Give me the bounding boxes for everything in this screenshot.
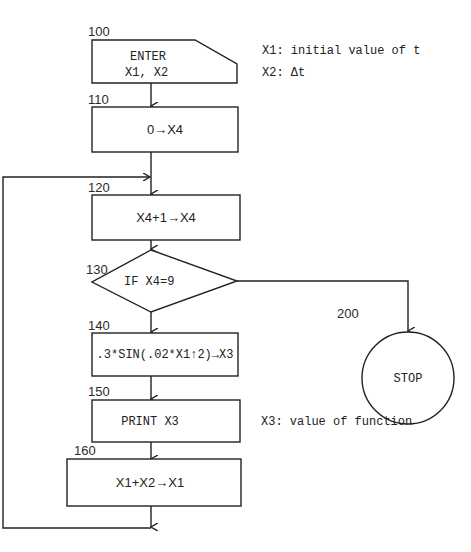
flowchart-diagram: 100 ENTER X1, X2 X1: initial value of t … — [0, 0, 471, 552]
node-110-number: 110 — [88, 92, 109, 107]
node-200-terminal: 200 STOP — [337, 306, 454, 424]
node-120-text: X4+1→X4 — [136, 210, 196, 225]
node-200-number: 200 — [337, 306, 359, 321]
node-120-process: 120 X4+1→X4 — [88, 180, 240, 240]
node-140-number: 140 — [88, 318, 110, 333]
node-150-output: 150 PRINT X3 — [88, 384, 240, 442]
node-120-number: 120 — [88, 180, 110, 195]
node-100-number: 100 — [88, 24, 110, 39]
node-130-decision: 130 IF X4=9 — [86, 250, 237, 312]
node-100-input: 100 ENTER X1, X2 — [88, 24, 237, 83]
node-150-text: PRINT X3 — [121, 415, 179, 429]
annotation-x2: X2: Δt — [262, 66, 305, 80]
node-150-number: 150 — [88, 384, 110, 399]
node-110-text: 0→X4 — [147, 122, 183, 137]
node-160-number: 160 — [74, 443, 96, 458]
annotation-x1: X1: initial value of t — [262, 44, 420, 58]
node-110-process: 110 0→X4 — [88, 92, 238, 152]
node-160-text: X1+X2→X1 — [116, 475, 184, 490]
node-130-text: IF X4=9 — [124, 275, 174, 289]
node-100-line2: X1, X2 — [125, 66, 168, 80]
annotation-x3: X3: value of function — [261, 415, 412, 429]
edge-130-200 — [237, 281, 408, 331]
node-100-line1: ENTER — [130, 50, 166, 64]
node-140-text: .3*SIN(.02*X1↑2)→X3 — [97, 348, 234, 362]
node-140-process: 140 .3*SIN(.02*X1↑2)→X3 — [88, 318, 238, 376]
node-200-text: STOP — [394, 372, 423, 386]
node-160-process: 160 X1+X2→X1 — [67, 443, 241, 506]
